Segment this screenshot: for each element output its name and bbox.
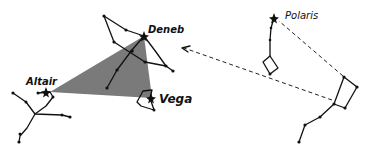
altair-label: Altair bbox=[25, 76, 58, 87]
little-dipper bbox=[263, 18, 278, 76]
vega-label: Vega bbox=[159, 92, 192, 106]
polaris-label: Polaris bbox=[285, 10, 318, 21]
aquila-constellation bbox=[11, 91, 71, 143]
big-dipper bbox=[297, 75, 358, 143]
pointer-line-to-polaris bbox=[279, 21, 343, 76]
deneb-label: Deneb bbox=[148, 24, 184, 35]
star-map: Deneb Altair Vega Polaris bbox=[0, 0, 369, 151]
pointer-line-to-deneb bbox=[184, 48, 332, 100]
